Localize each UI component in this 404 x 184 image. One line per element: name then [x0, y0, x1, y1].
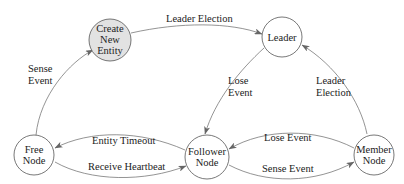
- edge-label-leader-election-top: Leader Election: [166, 13, 234, 24]
- node-label-line: Follower: [188, 146, 226, 157]
- node-label: CreateNewEntity: [96, 23, 124, 56]
- edge-follower-to-free: Entity Timeout: [55, 135, 185, 150]
- edge-member-to-leader: LeaderElection: [302, 45, 367, 134]
- edge-label-line: Election: [316, 87, 352, 98]
- edge-label-line: Leader: [316, 75, 346, 86]
- edge-label-lose-event-vertical: LoseEvent: [228, 75, 253, 98]
- node-free: FreeNode: [14, 135, 54, 175]
- node-leader: Leader: [262, 17, 302, 57]
- edge-label-sense-event: SenseEvent: [28, 63, 53, 86]
- node-label-line: Free: [25, 144, 44, 155]
- node-label-line: Member: [356, 144, 392, 155]
- edge-path: [131, 25, 262, 34]
- edge-label-lose-event-bottom: Lose Event: [264, 132, 312, 143]
- edge-label-line: Sense: [28, 63, 53, 74]
- node-member: MemberNode: [354, 135, 394, 175]
- edge-free-to-follower: Receive Heartbeat: [55, 161, 186, 178]
- node-label-line: Node: [363, 155, 386, 166]
- edge-label-sense-event-bottom: Sense Event: [262, 163, 314, 174]
- edge-free-to-create: SenseEvent: [28, 50, 93, 135]
- edge-create-to-leader: Leader Election: [131, 13, 262, 34]
- edge-label-line: Lose: [228, 75, 249, 86]
- node-label-line: Entity: [97, 45, 123, 56]
- node-label-line: New: [100, 34, 120, 45]
- edge-label-line: Event: [228, 87, 253, 98]
- edge-label-line: Event: [28, 75, 53, 86]
- edge-label-leader-election-right: LeaderElection: [316, 75, 352, 98]
- node-label-line: Node: [23, 155, 46, 166]
- edge-label-entity-timeout: Entity Timeout: [92, 135, 155, 146]
- edge-follower-to-member: Sense Event: [229, 162, 354, 179]
- edge-leader-to-follower: LoseEvent: [205, 48, 264, 134]
- node-follower: FollowerNode: [185, 135, 229, 179]
- node-label: Leader: [267, 32, 297, 43]
- node-label-line: Create: [96, 23, 124, 34]
- node-create-new-entity: CreateNewEntity: [89, 19, 131, 61]
- state-diagram: SenseEvent Leader Election LoseEvent Lea…: [0, 0, 404, 184]
- node-label: FreeNode: [23, 144, 46, 166]
- node-label-line: Node: [196, 157, 219, 168]
- edge-member-to-follower: Lose Event: [229, 132, 354, 149]
- edge-label-receive-heartbeat: Receive Heartbeat: [88, 161, 165, 172]
